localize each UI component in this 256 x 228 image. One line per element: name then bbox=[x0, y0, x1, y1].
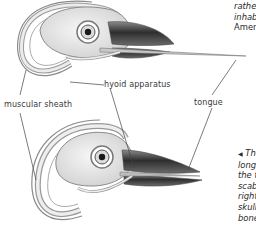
label-hyoid-apparatus: hyoid apparatus bbox=[104, 80, 171, 89]
label-muscular-sheath: muscular sheath bbox=[4, 100, 72, 109]
caption-line: inhab bbox=[234, 12, 256, 23]
pointer-left-icon: ◀ bbox=[238, 150, 243, 157]
top-skull-tongue-extended bbox=[18, 1, 246, 76]
caption-line: Ameri bbox=[234, 22, 256, 33]
caption-line: the ti bbox=[238, 170, 256, 181]
caption-line: long bbox=[238, 160, 256, 171]
caption-line-1: ◀ The bbox=[238, 148, 256, 160]
label-tongue: tongue bbox=[194, 98, 223, 107]
skull-illustrations bbox=[0, 0, 256, 228]
top-caption: rather inhab Ameri bbox=[234, 1, 256, 33]
bottom-caption: ◀ The long the ti scabl right skull t bo… bbox=[238, 148, 256, 223]
caption-line: right bbox=[238, 191, 256, 202]
caption-line: rather bbox=[234, 1, 256, 12]
caption-line: skull t bbox=[238, 202, 256, 213]
woodpecker-tongue-diagram: hyoid apparatus muscular sheath tongue r… bbox=[0, 0, 256, 228]
caption-line: bone bbox=[238, 213, 256, 224]
bottom-skull-tongue-retracted bbox=[32, 120, 202, 220]
caption-line: scabl bbox=[238, 181, 256, 192]
